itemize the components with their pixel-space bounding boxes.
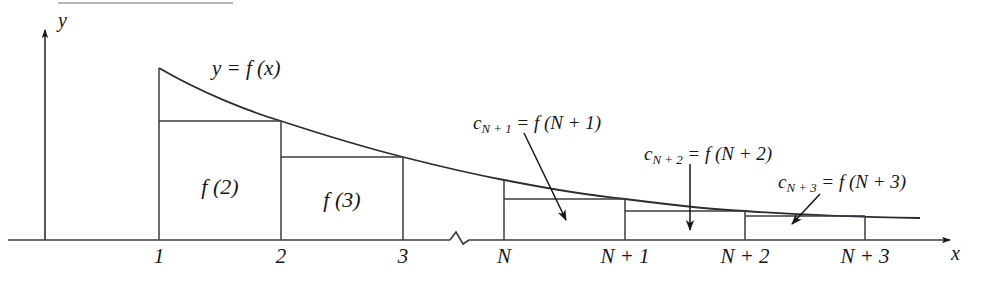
curve-label: y = f (x) <box>212 58 280 79</box>
annotation-equals-cn1: = <box>512 112 534 133</box>
annotation-label-cn3: cN + 3 = f (N + 3) <box>778 172 906 195</box>
annotation-arrow-cn3 <box>792 194 820 224</box>
axis-break-squiggle <box>450 232 469 244</box>
tick-label-N: N <box>497 246 511 267</box>
rect-label-f2: f (2) <box>201 176 238 198</box>
integral-test-figure: y x y = f (x) f (2) f (3) 1 2 3 N N + 1 … <box>0 0 983 287</box>
tick-label-N-plus-1: N + 1 <box>600 246 649 267</box>
tick-label-1: 1 <box>154 246 165 267</box>
function-curve <box>159 68 920 218</box>
annotation-arrow-cn1 <box>524 133 566 220</box>
annotation-rhs-cn1: f (N + 1) <box>534 112 601 133</box>
x-axis-label: x <box>951 243 960 263</box>
annotation-sub-cn3: N + 3 <box>786 180 816 195</box>
tick-label-2: 2 <box>276 246 287 267</box>
tick-label-3: 3 <box>398 246 409 267</box>
annotation-label-cn2: cN + 2 = f (N + 2) <box>644 144 772 167</box>
y-axis-label: y <box>58 10 67 30</box>
annotation-rhs-cn3: f (N + 3) <box>839 171 906 192</box>
annotation-sub-cn2: N + 2 <box>652 152 682 167</box>
rect-label-f3: f (3) <box>323 189 360 211</box>
annotation-rhs-cn2: f (N + 2) <box>705 143 772 164</box>
annotation-sub-cn1: N + 1 <box>481 121 511 136</box>
annotation-equals-cn2: = <box>683 143 705 164</box>
figure-canvas <box>0 0 983 287</box>
tick-label-N-plus-2: N + 2 <box>720 246 769 267</box>
annotation-label-cn1: cN + 1 = f (N + 1) <box>473 113 601 136</box>
annotation-equals-cn3: = <box>817 171 839 192</box>
tick-label-N-plus-3: N + 3 <box>840 246 889 267</box>
